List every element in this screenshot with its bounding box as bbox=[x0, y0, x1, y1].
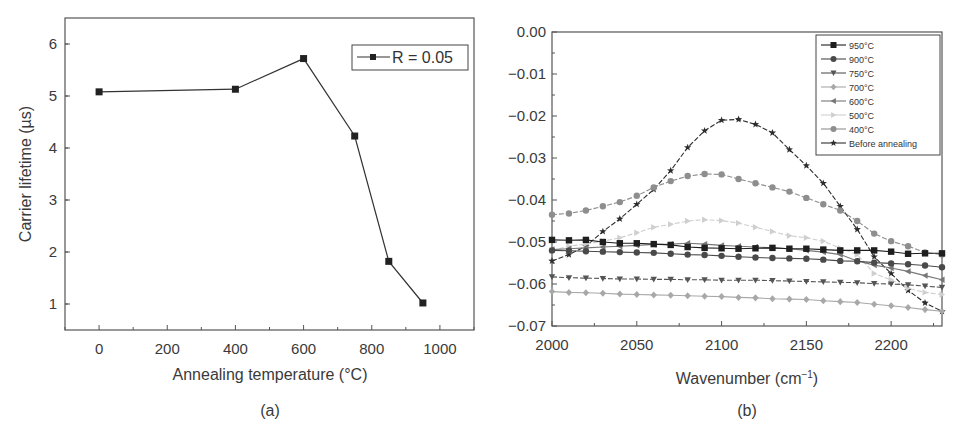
series-400-c bbox=[549, 171, 945, 258]
diamond-marker-icon bbox=[820, 297, 826, 304]
diamond-marker-icon bbox=[701, 293, 707, 300]
circle-marker-icon bbox=[735, 176, 741, 182]
triangle-right-marker-icon bbox=[651, 224, 657, 230]
circle-marker-icon bbox=[651, 184, 657, 190]
series-line bbox=[552, 250, 942, 267]
square-marker-icon bbox=[803, 246, 809, 252]
star-marker-icon bbox=[921, 299, 928, 306]
y-tick-label: 1 bbox=[49, 295, 57, 312]
circle-marker-icon bbox=[684, 173, 690, 179]
triangle-right-marker-icon bbox=[685, 218, 691, 224]
triangle-right-marker-icon bbox=[668, 221, 674, 227]
y-tick-label: 5 bbox=[49, 87, 57, 104]
triangle-right-marker-icon bbox=[736, 220, 742, 226]
triangle-right-marker-icon bbox=[753, 224, 759, 230]
diamond-marker-icon bbox=[769, 295, 775, 302]
legend-label-b: 950°C bbox=[849, 41, 875, 51]
square-marker-icon bbox=[684, 244, 690, 250]
legend-label-a: R = 0.05 bbox=[392, 49, 453, 66]
square-marker-icon bbox=[300, 55, 307, 62]
legend-b: 950°C900°C750°C700°C600°C500°C400°CBefor… bbox=[816, 35, 940, 155]
circle-marker-icon bbox=[549, 212, 555, 218]
x-tick-label: 600 bbox=[291, 340, 316, 357]
panel-label-a: (a) bbox=[260, 402, 280, 419]
triangle-right-marker-icon bbox=[617, 235, 623, 241]
square-marker-icon bbox=[786, 246, 792, 252]
y-axis-a: 123456 bbox=[49, 35, 70, 312]
circle-marker-icon bbox=[583, 248, 589, 254]
diamond-marker-icon bbox=[667, 292, 673, 299]
series-line bbox=[552, 277, 942, 288]
panel-label-b: (b) bbox=[737, 402, 757, 419]
x-tick-label: 2200 bbox=[874, 336, 907, 353]
square-marker-icon bbox=[600, 239, 606, 245]
square-marker-icon bbox=[735, 246, 741, 252]
diamond-marker-icon bbox=[752, 294, 758, 301]
square-marker-icon bbox=[617, 240, 623, 246]
circle-marker-icon bbox=[684, 251, 690, 257]
legend-label-b: Before annealing bbox=[849, 139, 917, 149]
legend-label-b: 500°C bbox=[849, 111, 875, 121]
diamond-marker-icon bbox=[837, 298, 843, 305]
square-marker-icon bbox=[667, 242, 673, 248]
y-tick-label: −0.01 bbox=[508, 65, 546, 82]
y-tick-label: 2 bbox=[49, 243, 57, 260]
square-marker-icon bbox=[634, 240, 640, 246]
diamond-marker-icon bbox=[617, 291, 623, 298]
square-marker-icon bbox=[939, 250, 945, 256]
circle-marker-icon bbox=[752, 180, 758, 186]
circle-marker-icon bbox=[566, 210, 572, 216]
legend-label-b: 750°C bbox=[849, 69, 875, 79]
legend-box-b bbox=[816, 35, 940, 155]
series-line bbox=[552, 292, 942, 312]
diamond-marker-icon bbox=[634, 291, 640, 298]
series-a bbox=[96, 55, 427, 306]
series-line bbox=[99, 59, 423, 303]
x-tick-label: 2000 bbox=[535, 336, 568, 353]
circle-marker-icon bbox=[718, 253, 724, 259]
y-tick-label: −0.02 bbox=[508, 107, 546, 124]
circle-marker-icon bbox=[854, 218, 860, 224]
y-tick-label: −0.07 bbox=[508, 317, 546, 334]
legend-label-b: 400°C bbox=[849, 125, 875, 135]
star-marker-icon bbox=[803, 162, 810, 169]
circle-marker-icon bbox=[831, 126, 837, 132]
circle-marker-icon bbox=[549, 247, 555, 253]
y-tick-label: −0.04 bbox=[508, 191, 546, 208]
diamond-marker-icon bbox=[651, 291, 657, 298]
square-marker-icon bbox=[820, 246, 826, 252]
triangle-right-marker-icon bbox=[821, 238, 827, 244]
circle-marker-icon bbox=[854, 258, 860, 264]
triangle-right-marker-icon bbox=[804, 235, 810, 241]
triangle-right-marker-icon bbox=[634, 230, 640, 236]
circle-marker-icon bbox=[871, 230, 877, 236]
circle-marker-icon bbox=[905, 243, 911, 249]
triangle-right-marker-icon bbox=[770, 228, 776, 234]
y-tick-label: 6 bbox=[49, 35, 57, 52]
triangle-left-marker-icon bbox=[922, 272, 928, 278]
legend-label-b: 700°C bbox=[849, 83, 875, 93]
triangle-right-marker-icon bbox=[702, 217, 708, 223]
square-marker-icon bbox=[385, 258, 392, 265]
square-marker-icon bbox=[922, 250, 928, 256]
x-tick-label: 1000 bbox=[423, 340, 456, 357]
circle-marker-icon bbox=[617, 199, 623, 205]
diamond-marker-icon bbox=[583, 289, 589, 296]
circle-marker-icon bbox=[634, 193, 640, 199]
square-marker-icon bbox=[232, 86, 239, 93]
y-tick-label: −0.06 bbox=[508, 275, 546, 292]
square-marker-icon bbox=[419, 299, 426, 306]
diamond-marker-icon bbox=[888, 302, 894, 309]
x-tick-label: 0 bbox=[95, 340, 103, 357]
circle-marker-icon bbox=[701, 171, 707, 177]
y-tick-label: 0.00 bbox=[517, 23, 546, 40]
diamond-marker-icon bbox=[922, 306, 928, 313]
x-axis-title-a: Annealing temperature (°C) bbox=[173, 366, 368, 383]
y-tick-label: −0.05 bbox=[508, 233, 546, 250]
x-tick-label: 200 bbox=[155, 340, 180, 357]
series-750-c bbox=[549, 274, 945, 290]
series-700-c bbox=[549, 288, 945, 315]
square-marker-icon bbox=[888, 248, 894, 254]
circle-marker-icon bbox=[600, 248, 606, 254]
y-axis-b: 0.00−0.01−0.02−0.03−0.04−0.05−0.06−0.07 bbox=[508, 23, 557, 334]
